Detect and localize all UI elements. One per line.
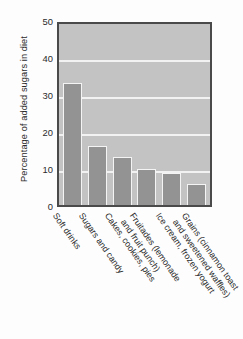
y-tick-label: 30 [29, 91, 53, 100]
y-tick-label: 10 [29, 165, 53, 174]
bar[interactable] [113, 157, 132, 205]
y-axis-title: Percentage of added sugars in diet [19, 9, 29, 209]
y-tick-label: 50 [29, 17, 53, 26]
bar-series [59, 24, 210, 205]
y-tick-label: 20 [29, 128, 53, 137]
y-tick-label: 40 [29, 54, 53, 63]
x-axis-tick-labels: Soft drinks Sugars and candy Cakes, cook… [0, 209, 243, 339]
bar[interactable] [137, 169, 156, 205]
bar[interactable] [88, 146, 107, 205]
bar[interactable] [162, 173, 181, 205]
y-axis-tick-labels: 50 40 30 20 10 0 [29, 22, 53, 207]
bar[interactable] [63, 83, 82, 205]
bar-chart: Percentage of added sugars in diet 50 40… [0, 0, 243, 339]
bar[interactable] [187, 184, 206, 205]
plot-area [57, 22, 212, 207]
